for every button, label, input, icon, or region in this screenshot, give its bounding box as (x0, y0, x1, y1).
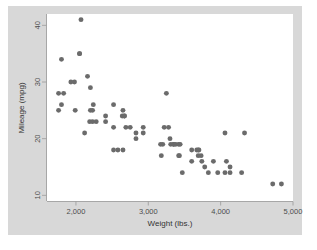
data-point (239, 170, 244, 175)
x-tick-label: 3,000 (139, 207, 158, 216)
data-point (88, 85, 93, 90)
data-point (91, 102, 96, 107)
x-tick-marks (76, 202, 293, 206)
data-point (228, 170, 233, 175)
data-point (206, 170, 211, 175)
data-point (279, 182, 284, 187)
data-point (59, 102, 64, 107)
data-point (196, 153, 201, 158)
data-point (134, 131, 139, 136)
data-point (111, 148, 116, 153)
data-point (164, 91, 169, 96)
data-point (215, 170, 220, 175)
y-tick-label: 10 (33, 191, 42, 199)
data-point (77, 51, 82, 56)
data-point (178, 142, 183, 147)
data-point (134, 136, 139, 141)
data-point (162, 125, 167, 130)
data-point (180, 170, 185, 175)
data-point (202, 165, 207, 170)
data-point (123, 125, 128, 130)
data-point (223, 131, 228, 136)
x-tick-labels: 2,0003,0004,0005,000 (67, 207, 303, 216)
data-point (111, 102, 116, 107)
data-point (56, 91, 61, 96)
data-points-group (56, 17, 284, 186)
data-point (141, 125, 146, 130)
scatter-plot-figure: 10203040 Mileage (mpg) 2,0003,0004,0005,… (0, 0, 317, 250)
data-point (103, 119, 108, 124)
data-point (103, 114, 108, 119)
y-axis-title: Mileage (mpg) (17, 82, 26, 133)
y-tick-marks (42, 25, 47, 195)
data-point (121, 148, 126, 153)
data-point (85, 74, 90, 79)
data-point (79, 17, 84, 22)
data-point (61, 91, 66, 96)
data-point (189, 148, 194, 153)
y-tick-labels: 10203040 (33, 21, 42, 199)
data-point (73, 108, 78, 113)
x-axis-title: Weight (lbs.) (148, 219, 193, 228)
x-tick-label: 2,000 (67, 207, 86, 216)
data-point (160, 142, 165, 147)
data-point (199, 159, 204, 164)
data-point (166, 125, 171, 130)
data-point (68, 80, 73, 85)
data-point (189, 159, 194, 164)
data-point (115, 148, 120, 153)
data-point (122, 114, 127, 119)
x-tick-label: 5,000 (284, 207, 303, 216)
data-point (270, 182, 275, 187)
data-point (82, 131, 87, 136)
data-point (121, 108, 126, 113)
y-tick-label: 40 (33, 21, 42, 29)
data-point (59, 57, 64, 62)
data-point (90, 119, 95, 124)
x-axis: 2,0003,0004,0005,000 Weight (lbs.) (47, 202, 302, 229)
data-point (141, 131, 146, 136)
data-point (56, 108, 61, 113)
data-point (159, 153, 164, 158)
y-axis: 10203040 Mileage (mpg) (17, 14, 47, 201)
data-point (196, 148, 201, 153)
y-tick-label: 30 (33, 78, 42, 86)
data-point (223, 170, 228, 175)
data-point (168, 136, 173, 141)
data-point (242, 131, 247, 136)
data-point (224, 159, 229, 164)
y-tick-label: 20 (33, 134, 42, 142)
data-point (211, 159, 216, 164)
data-point (111, 125, 116, 130)
data-point (176, 153, 181, 158)
data-point (90, 108, 95, 113)
x-tick-label: 4,000 (211, 207, 230, 216)
data-point (228, 165, 233, 170)
chart-svg: 10203040 Mileage (mpg) 2,0003,0004,0005,… (0, 0, 317, 250)
data-point (128, 125, 133, 130)
